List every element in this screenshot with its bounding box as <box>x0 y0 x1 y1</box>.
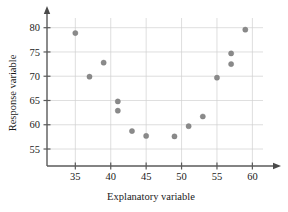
y-tick-label: 80 <box>30 22 41 33</box>
y-axis-tick-labels: 556065707580 <box>30 22 41 154</box>
data-point <box>186 124 191 129</box>
data-point <box>200 114 205 119</box>
data-point <box>229 51 234 56</box>
x-axis-tick-labels: 354045505560 <box>70 171 258 182</box>
scatter-plot-figure: 354045505560 556065707580 Explanatory va… <box>0 0 288 212</box>
tick-marks <box>44 28 253 170</box>
x-tick-label: 55 <box>212 171 223 182</box>
y-tick-label: 70 <box>30 71 41 82</box>
data-point <box>129 128 134 133</box>
x-tick-label: 45 <box>141 171 152 182</box>
data-point <box>229 61 234 66</box>
y-tick-label: 75 <box>30 47 41 58</box>
y-tick-label: 55 <box>30 144 41 155</box>
data-point <box>214 75 219 80</box>
data-point <box>101 60 106 65</box>
gridlines <box>47 18 263 166</box>
data-point <box>115 108 120 113</box>
y-axis-arrow-icon <box>44 6 50 14</box>
y-tick-label: 60 <box>30 119 41 130</box>
data-point <box>115 99 120 104</box>
data-point <box>243 27 248 32</box>
data-point <box>172 134 177 139</box>
x-tick-label: 60 <box>247 171 258 182</box>
data-point <box>87 74 92 79</box>
data-points <box>73 27 248 139</box>
y-tick-label: 65 <box>30 95 41 106</box>
y-axis-title: Response variable <box>7 54 18 131</box>
plot-canvas: 354045505560 556065707580 Explanatory va… <box>0 0 288 212</box>
data-point <box>73 30 78 35</box>
x-tick-label: 35 <box>70 171 81 182</box>
x-axis-title: Explanatory variable <box>107 191 195 202</box>
x-tick-label: 50 <box>176 171 187 182</box>
data-point <box>144 133 149 138</box>
x-axis-arrow-icon <box>273 163 281 169</box>
x-tick-label: 40 <box>105 171 116 182</box>
